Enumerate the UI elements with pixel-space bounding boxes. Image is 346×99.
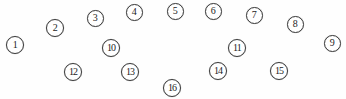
node-marker-6[interactable]: 6 (205, 3, 222, 20)
node-marker-14[interactable]: 14 (209, 62, 227, 80)
node-marker-1[interactable]: 1 (6, 36, 24, 54)
node-marker-2[interactable]: 2 (46, 19, 64, 37)
node-marker-8[interactable]: 8 (287, 16, 304, 33)
node-marker-11[interactable]: 11 (228, 39, 246, 57)
node-marker-4[interactable]: 4 (126, 4, 143, 21)
node-marker-5[interactable]: 5 (167, 3, 184, 20)
node-marker-16[interactable]: 16 (163, 79, 181, 97)
node-marker-13[interactable]: 13 (121, 63, 139, 81)
node-marker-15[interactable]: 15 (270, 62, 288, 80)
node-marker-3[interactable]: 3 (87, 10, 104, 27)
node-marker-7[interactable]: 7 (246, 7, 263, 24)
node-marker-9[interactable]: 9 (324, 35, 341, 52)
numbered-node-figure: 12345678910111213141516 (0, 0, 346, 99)
node-marker-10[interactable]: 10 (102, 39, 120, 57)
node-marker-12[interactable]: 12 (64, 63, 82, 81)
